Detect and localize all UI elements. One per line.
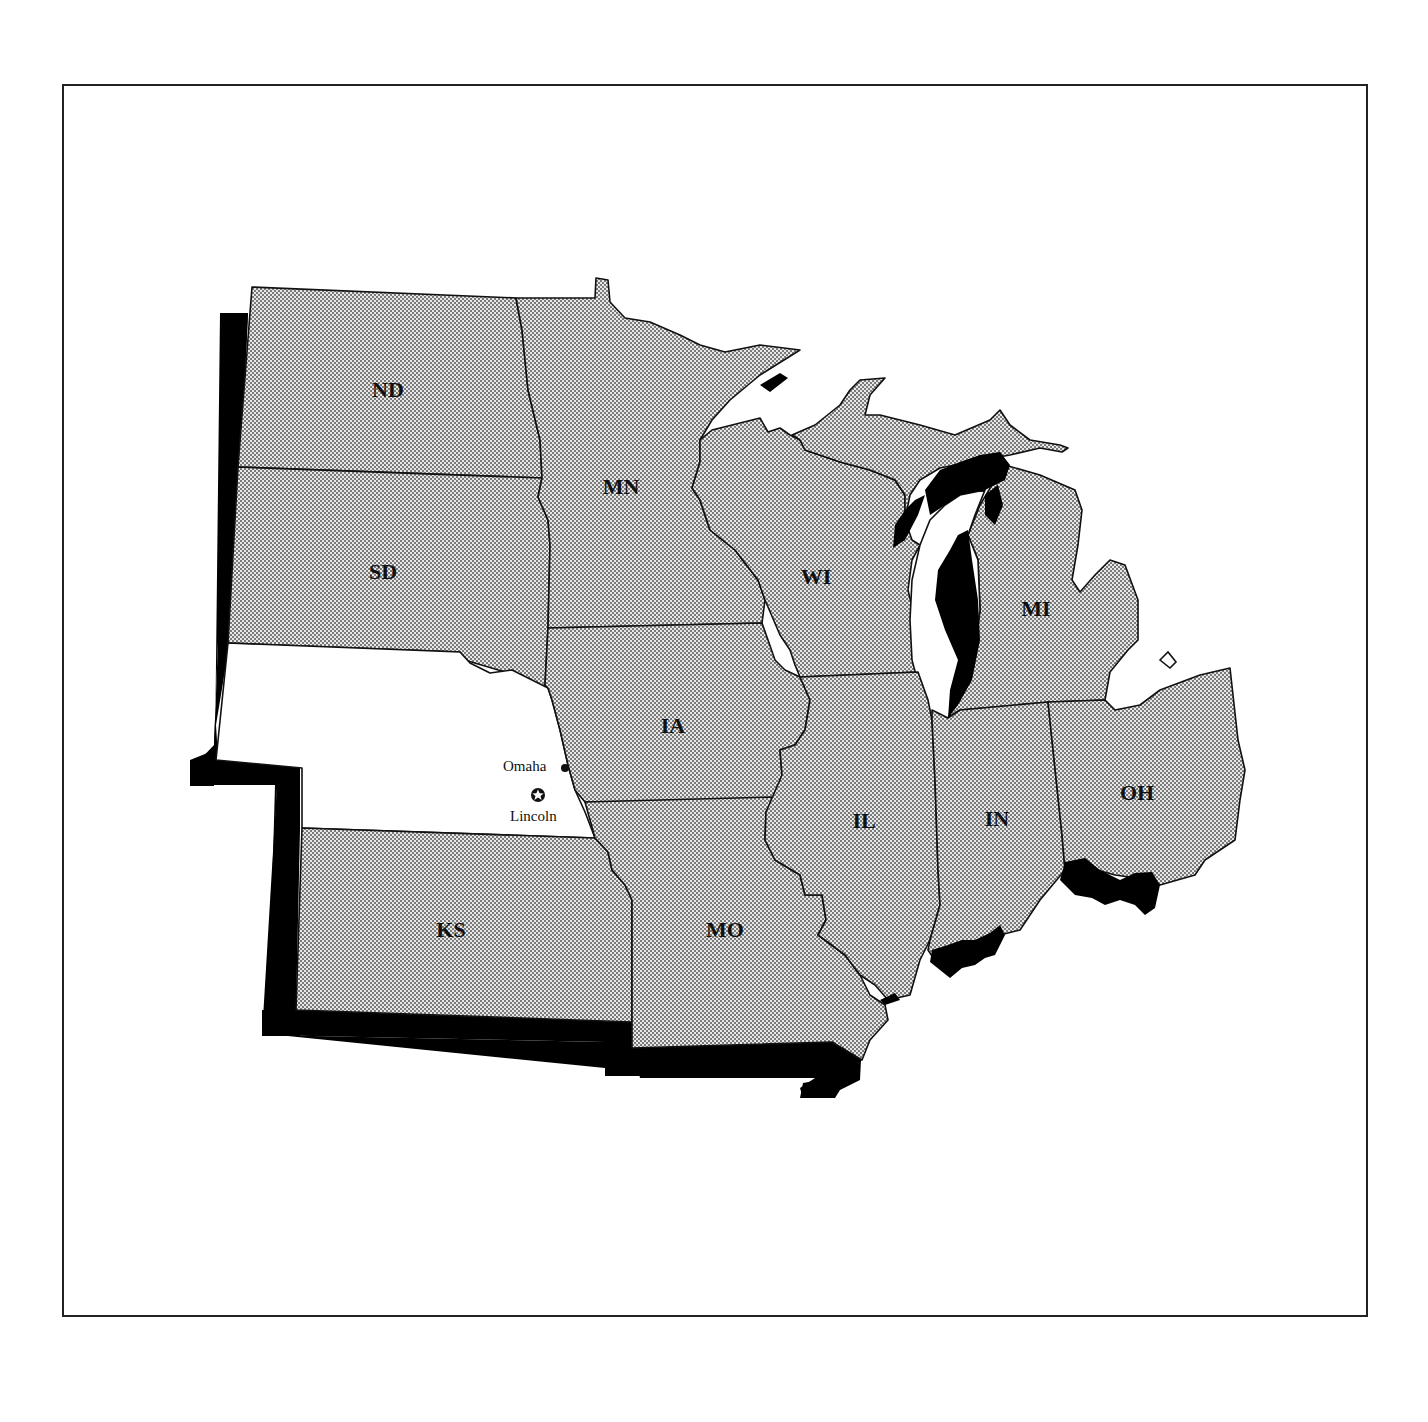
label-mi: MI xyxy=(1021,596,1050,621)
label-sd: SD xyxy=(369,559,397,584)
label-mo: MO xyxy=(706,917,744,942)
label-in: IN xyxy=(985,806,1010,831)
label-mn: MN xyxy=(603,474,640,499)
label-lincoln: Lincoln xyxy=(510,808,557,824)
lake-huron-island xyxy=(1160,652,1176,668)
state-oh[interactable] xyxy=(1048,668,1245,885)
midwest-map: ND SD KS MN IA MO WI IL MI IN OH Omaha L… xyxy=(0,0,1428,1422)
label-nd: ND xyxy=(372,377,404,402)
label-ks: KS xyxy=(436,917,465,942)
lincoln-star-icon xyxy=(531,788,545,802)
label-il: IL xyxy=(852,808,875,833)
label-oh: OH xyxy=(1120,780,1154,805)
label-wi: WI xyxy=(801,564,832,589)
omaha-dot-icon xyxy=(561,764,569,772)
lake-superior-shore xyxy=(760,373,788,392)
label-omaha: Omaha xyxy=(503,758,547,774)
label-ia: IA xyxy=(661,713,686,738)
